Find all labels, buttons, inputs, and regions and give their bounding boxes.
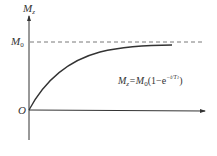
m0-label: M0 [11, 36, 24, 49]
formula-paren: (1−e [148, 75, 166, 86]
formula-exp-text: −t/T [166, 74, 177, 80]
m0-label-main: M [11, 35, 20, 47]
formula-exponent: −t/T1 [166, 74, 179, 80]
m0-label-sub: 0 [20, 41, 24, 49]
formula-close: ) [179, 75, 182, 86]
formula-eq: =M [129, 75, 144, 86]
origin-label-text: O [18, 104, 26, 116]
y-axis-label-sub: z [32, 8, 35, 16]
y-axis-label-main: M [23, 2, 32, 14]
x-axis [29, 110, 205, 111]
origin-label: O [18, 105, 26, 116]
y-axis-label: Mz [23, 3, 35, 16]
relaxation-diagram [0, 0, 217, 156]
formula: Mz=M0(1−e−t/T1) [118, 74, 183, 88]
